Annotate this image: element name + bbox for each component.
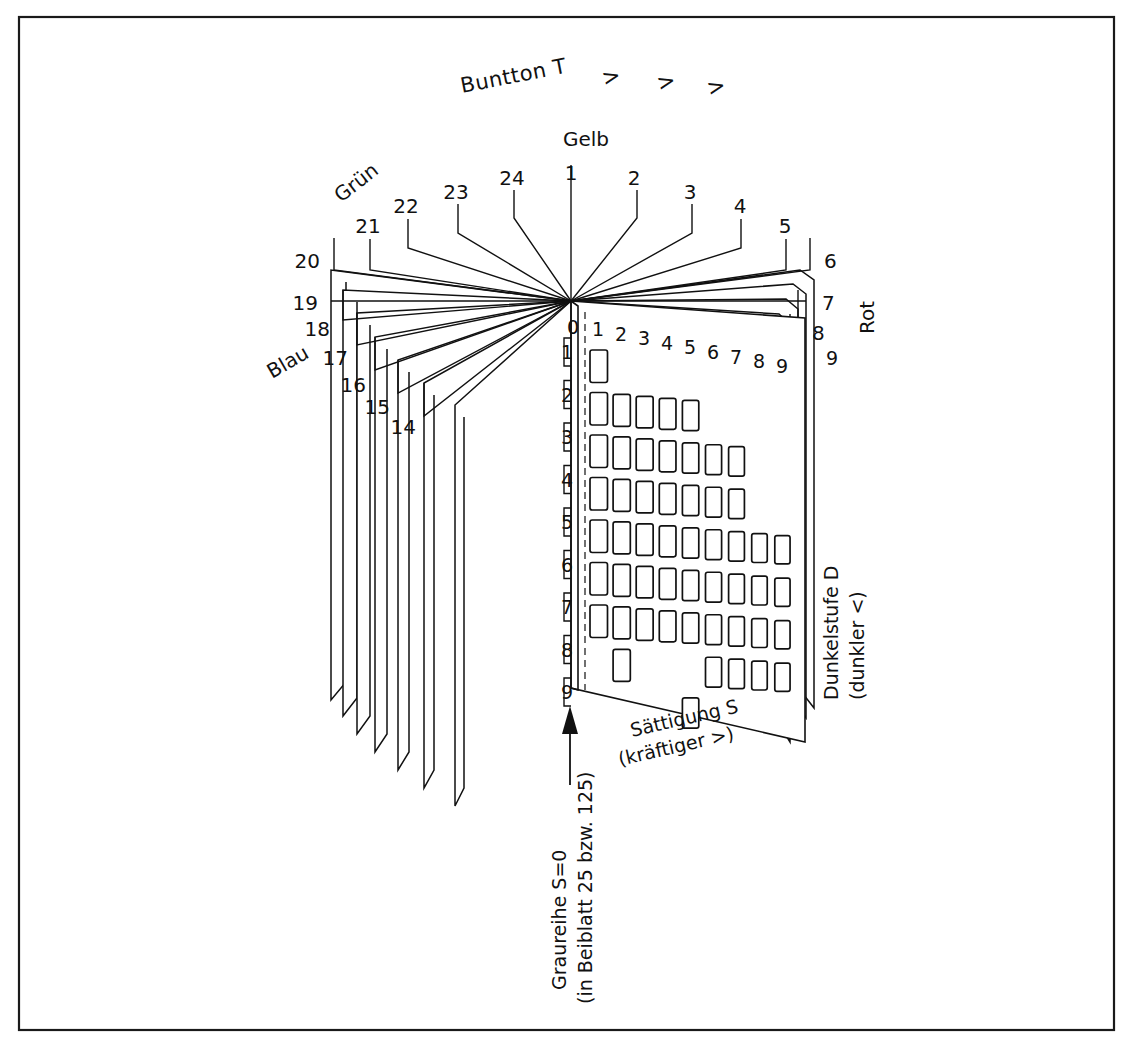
- page-number-17: 17: [323, 346, 348, 370]
- swatch-d6-s3: [636, 566, 653, 597]
- hue-label-yellow: Gelb: [563, 127, 609, 151]
- gray-series-caption-line2: (in Beiblatt 25 bzw. 125): [574, 772, 596, 1005]
- swatch-d3-s6: [706, 445, 722, 475]
- darkness-scale-numbers: 123456789: [561, 341, 573, 703]
- swatch-d5-s2: [613, 522, 630, 554]
- swatch-d3-s3: [636, 439, 653, 470]
- saturation-number-2: 2: [615, 323, 627, 345]
- swatch-d2-s1: [590, 393, 608, 426]
- page-number-18: 18: [305, 317, 330, 341]
- page-number-2: 2: [628, 166, 641, 190]
- swatch-d7-s5: [682, 613, 698, 643]
- swatch-d6-s2: [613, 564, 630, 596]
- darkness-number-5: 5: [561, 511, 573, 533]
- swatch-d5-s7: [729, 532, 745, 561]
- swatch-d7-s7: [729, 617, 745, 646]
- left-page-7: [455, 301, 571, 806]
- swatch-d5-s9: [775, 536, 790, 564]
- swatch-d3-s2: [613, 437, 630, 469]
- swatch-d7-s2: [613, 607, 630, 639]
- swatch-d2-s5: [682, 400, 698, 430]
- swatch-d5-s3: [636, 524, 653, 555]
- swatch-d8-s8: [752, 661, 768, 690]
- swatch-d3-s4: [659, 441, 676, 472]
- saturation-number-0: 0: [567, 316, 579, 338]
- swatch-d3-s1: [590, 435, 608, 468]
- page-number-4: 4: [734, 194, 747, 218]
- page-number-16: 16: [341, 373, 366, 397]
- swatch-d7-s1: [590, 605, 608, 638]
- page-ray-2: [571, 190, 637, 301]
- swatch-d4-s5: [682, 485, 698, 515]
- left-page-face-7: [455, 301, 571, 806]
- saturation-number-8: 8: [753, 350, 765, 372]
- swatch-d5-s1: [590, 520, 608, 553]
- page-number-14: 14: [391, 415, 416, 439]
- darkness-axis-sublabel-text: (dunkler <): [846, 591, 868, 700]
- swatch-d8-s7: [729, 659, 745, 688]
- front-page-number: 9: [826, 347, 838, 369]
- page-number-1: 1: [565, 161, 578, 185]
- hue-label-red: Rot: [855, 301, 879, 334]
- saturation-number-9: 9: [776, 355, 788, 377]
- darkness-axis-label-text: Dunkelstufe D: [820, 566, 842, 700]
- swatch-d6-s8: [752, 576, 768, 605]
- swatch-d7-s6: [706, 615, 722, 645]
- swatch-d4-s7: [729, 489, 745, 518]
- swatch-d7-s3: [636, 609, 653, 640]
- swatch-d5-s4: [659, 526, 676, 557]
- swatch-d2-s4: [659, 398, 676, 429]
- gray-series-arrow-head: [562, 706, 578, 734]
- swatch-d4-s1: [590, 478, 608, 511]
- title-arrow-2: >: [654, 67, 678, 96]
- swatch-d6-s7: [729, 574, 745, 603]
- swatch-d4-s3: [636, 481, 653, 512]
- darkness-number-9: 9: [561, 681, 573, 703]
- swatch-d1-s1: [590, 350, 608, 383]
- title-group: Buntton T > > >: [458, 54, 728, 101]
- saturation-number-5: 5: [684, 336, 696, 358]
- title-arrow-3: >: [704, 72, 728, 101]
- gray-series-caption: Graureihe S=0 (in Beiblatt 25 bzw. 125): [548, 772, 596, 1005]
- page-number-3: 3: [684, 180, 697, 204]
- darkness-number-8: 8: [561, 639, 573, 661]
- saturation-number-1: 1: [592, 318, 604, 340]
- swatch-d2-s2: [613, 394, 630, 426]
- swatch-d7-s8: [752, 619, 768, 648]
- hue-label-green: Grün: [329, 158, 382, 207]
- swatch-d6-s6: [706, 572, 722, 602]
- page-number-22: 22: [393, 194, 418, 218]
- title-text: Buntton T: [458, 54, 568, 98]
- saturation-number-4: 4: [661, 332, 673, 354]
- swatch-d5-s5: [682, 528, 698, 558]
- swatch-d4-s4: [659, 483, 676, 514]
- page-number-21: 21: [355, 214, 380, 238]
- swatch-d2-s3: [636, 396, 653, 427]
- page-number-15: 15: [365, 395, 390, 419]
- darkness-number-7: 7: [561, 596, 573, 618]
- darkness-axis-label: Dunkelstufe D (dunkler <): [820, 566, 868, 700]
- page-number-19: 19: [293, 291, 318, 315]
- figure-canvas: Buntton T > > > Gelb Grün Blau Rot 12345…: [0, 0, 1133, 1043]
- darkness-number-3: 3: [561, 426, 573, 448]
- page-number-6: 6: [824, 249, 837, 273]
- page-number-8: 8: [812, 321, 825, 345]
- swatch-d8-s6: [706, 657, 722, 687]
- swatch-d3-s7: [729, 447, 745, 476]
- swatch-d8-s9: [775, 663, 790, 691]
- left-page-stack: [331, 270, 571, 806]
- swatch-d4-s6: [706, 487, 722, 517]
- swatch-d5-s6: [706, 530, 722, 560]
- saturation-number-6: 6: [707, 341, 719, 363]
- swatch-d3-s5: [682, 443, 698, 473]
- page-number-20: 20: [295, 249, 320, 273]
- swatch-d6-s1: [590, 563, 608, 596]
- gray-series-caption-line1: Graureihe S=0: [548, 850, 570, 990]
- page-number-7: 7: [822, 291, 835, 315]
- darkness-number-6: 6: [561, 554, 573, 576]
- swatch-d4-s2: [613, 479, 630, 511]
- swatch-d8-s2: [613, 649, 630, 681]
- swatch-d6-s4: [659, 568, 676, 599]
- page-number-23: 23: [443, 180, 468, 204]
- swatch-d7-s9: [775, 621, 790, 649]
